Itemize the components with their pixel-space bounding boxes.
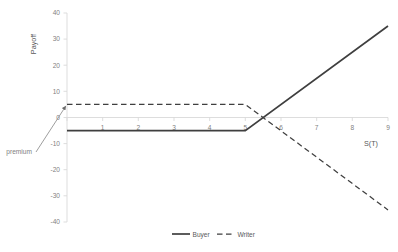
x-tick-label-1: 1 — [101, 124, 105, 131]
x-tick-label-9: 9 — [386, 124, 390, 131]
y-tick-label-neg20: -20 — [50, 166, 60, 173]
x-tick-label-2: 2 — [136, 124, 140, 131]
y-tick-label-neg10: -10 — [50, 140, 60, 147]
x-tick-label-3: 3 — [172, 124, 176, 131]
premium-annotation-label: premium — [6, 148, 32, 156]
x-tick-label-8: 8 — [350, 124, 354, 131]
legend-label-buyer: Buyer — [193, 231, 211, 239]
y-tick-label-neg30: -30 — [50, 192, 60, 199]
y-tick-label-10: 10 — [53, 88, 61, 95]
legend-label-writer: Writer — [238, 231, 256, 238]
payoff-chart-figure: 40 30 20 10 0 -10 -20 -30 -40 Payoff 1 2… — [0, 0, 398, 252]
chart-canvas: 40 30 20 10 0 -10 -20 -30 -40 Payoff 1 2… — [0, 0, 398, 252]
y-axis-title: Payoff — [29, 34, 38, 54]
x-axis-title: S(T) — [364, 139, 378, 148]
x-tick-label-7: 7 — [315, 124, 319, 131]
y-tick-label-neg40: -40 — [50, 218, 60, 225]
y-tick-label-30: 30 — [53, 35, 61, 42]
y-tick-label-20: 20 — [53, 62, 61, 69]
x-tick-label-4: 4 — [208, 124, 212, 131]
y-tick-label-40: 40 — [53, 9, 61, 16]
